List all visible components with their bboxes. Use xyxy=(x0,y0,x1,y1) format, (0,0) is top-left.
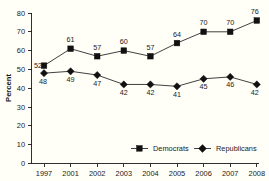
x-axis-ticks: 1997 2001 2002 2003 2004 2005 2006 2007 … xyxy=(36,164,265,179)
square-marker-icon xyxy=(174,40,180,46)
point-label: 45 xyxy=(200,82,208,91)
point-label: 42 xyxy=(251,88,259,97)
x-tick-label: 1997 xyxy=(36,169,52,178)
point-label: 57 xyxy=(93,43,101,52)
x-tick-label: 2004 xyxy=(142,169,158,178)
point-label: 41 xyxy=(173,90,181,99)
legend-label-democrats: Democrats xyxy=(153,144,189,153)
x-tick-label: 2006 xyxy=(195,169,211,178)
square-marker-icon xyxy=(41,63,47,69)
point-label: 70 xyxy=(200,18,208,27)
line-chart-container: 80 70 60 50 40 30 20 10 0 Percent 1997 xyxy=(0,0,269,181)
y-tick-label: 60 xyxy=(17,46,25,55)
y-tick-label: 40 xyxy=(17,84,25,93)
point-label: 42 xyxy=(146,88,154,97)
point-label: 46 xyxy=(226,80,234,89)
square-marker-icon xyxy=(148,53,154,59)
square-marker-icon xyxy=(94,53,100,59)
point-label: 57 xyxy=(146,43,154,52)
square-marker-icon xyxy=(227,29,233,35)
y-tick-label: 30 xyxy=(17,103,25,112)
x-tick-label: 2008 xyxy=(249,169,265,178)
x-tick-label: 2002 xyxy=(89,169,105,178)
chart-canvas: 80 70 60 50 40 30 20 10 0 Percent 1997 xyxy=(0,0,269,181)
point-label: 47 xyxy=(93,79,101,88)
y-tick-label: 0 xyxy=(21,159,25,168)
point-label: 48 xyxy=(39,77,47,86)
y-tick-label: 50 xyxy=(17,65,25,74)
x-tick-label: 2003 xyxy=(116,169,132,178)
x-tick-label: 2001 xyxy=(62,169,78,178)
y-tick-label: 20 xyxy=(17,121,25,130)
square-marker-icon xyxy=(121,48,127,54)
point-label: 42 xyxy=(120,88,128,97)
point-label: 64 xyxy=(173,30,181,39)
y-tick-label: 70 xyxy=(17,27,25,36)
y-tick-label: 80 xyxy=(17,9,25,18)
point-label: 61 xyxy=(67,35,75,44)
x-tick-label: 2005 xyxy=(169,169,185,178)
x-tick-label: 2007 xyxy=(222,169,238,178)
square-marker-icon xyxy=(254,18,260,24)
legend-label-republicans: Republicans xyxy=(216,144,257,153)
point-label: 52 xyxy=(34,61,42,70)
y-tick-label: 10 xyxy=(17,140,25,149)
y-axis-title: Percent xyxy=(4,74,13,102)
point-label: 49 xyxy=(67,75,75,84)
point-label: 70 xyxy=(226,18,234,27)
square-marker-icon xyxy=(201,29,207,35)
point-label: 76 xyxy=(251,7,259,16)
square-marker-icon xyxy=(68,46,74,52)
square-marker-icon xyxy=(137,146,143,152)
point-label: 60 xyxy=(120,37,128,46)
